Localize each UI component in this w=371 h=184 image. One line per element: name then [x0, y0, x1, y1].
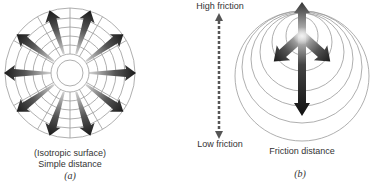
origin-glow [293, 27, 311, 45]
arrow-down-icon [215, 131, 223, 139]
arrow-icon [12, 28, 59, 68]
friction-distance-caption: Friction distance [262, 146, 342, 157]
friction-axis [215, 13, 223, 139]
panel-b-label: (b) [285, 168, 315, 179]
panel-a-label: (a) [20, 170, 120, 181]
arrow-icon [81, 28, 128, 68]
panel-a-caption-line1: (Isotropic surface) [20, 148, 120, 159]
arrow-icon [90, 65, 136, 81]
arrow-icon [12, 78, 59, 118]
arrow-up-icon [215, 13, 223, 21]
low-friction-label: Low friction [193, 139, 247, 150]
high-friction-label: High friction [193, 1, 247, 12]
panel-a-caption-line2: Simple distance [20, 159, 120, 170]
arrow-icon [81, 78, 128, 118]
panel-b-friction [215, 2, 369, 141]
arrow-icon [4, 65, 50, 81]
vertical-double-arrow-icon [294, 2, 310, 116]
panel-a-isotropic [4, 8, 136, 138]
